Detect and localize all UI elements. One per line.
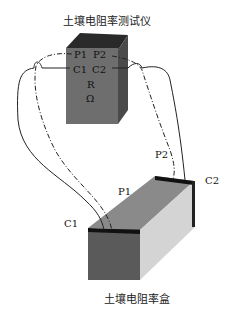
soil-resistivity-diagram: 土壤电阻率测试仪 P1 P2 C1 C2 R Ω (0, 0, 233, 312)
box-label-c1: C1 (64, 218, 78, 229)
box-label-c2: C2 (205, 175, 219, 186)
box-title: 土壤电阻率盒 (104, 290, 170, 306)
meter-side-face (118, 35, 128, 124)
meter-top-face (66, 33, 128, 50)
box-front-face (88, 229, 140, 280)
box-label-p1: P1 (118, 186, 131, 197)
meter-terminal-c1: C1 (73, 64, 87, 75)
meter-terminal-c2: C2 (92, 64, 106, 75)
meter-symbol-ohm: Ω (86, 93, 94, 104)
electrode-c2-edge (192, 181, 195, 227)
meter-symbol-r: R (87, 79, 95, 90)
box-label-p2: P2 (155, 149, 168, 160)
meter-terminal-p1: P1 (74, 49, 87, 60)
meter-device: P1 P2 C1 C2 R Ω (66, 33, 128, 124)
meter-terminal-p2: P2 (93, 49, 106, 60)
